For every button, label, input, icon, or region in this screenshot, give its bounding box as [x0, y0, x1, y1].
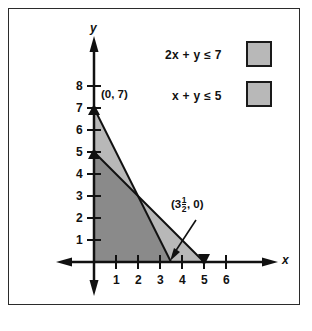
x-axis-label: x [282, 254, 289, 266]
legend-swatch-1 [246, 81, 272, 107]
x-axis-arrow-left [56, 258, 72, 267]
y-axis-arrow-up [90, 36, 99, 52]
y-tick-label-6: 6 [76, 124, 83, 136]
intercept-marker-0-7 [88, 104, 100, 115]
x-tick-label-2: 2 [135, 274, 142, 286]
legend-label-0: 2x + y ≤ 7 [165, 49, 222, 61]
point-label-suffix: , 0) [187, 198, 204, 210]
y-axis-label: y [90, 22, 97, 34]
fraction-denominator: 2 [182, 204, 187, 214]
y-tick-label-7: 7 [76, 102, 83, 114]
x-tick-label-3: 3 [157, 274, 164, 286]
y-axis-arrow-down [90, 280, 99, 296]
point-label-3half-0: (312, 0) [171, 196, 204, 214]
point-label-0-7: (0, 7) [101, 89, 128, 101]
x-tick-label-5: 5 [201, 274, 208, 286]
fraction-one-half: 12 [182, 196, 187, 214]
legend-swatch-0 [246, 41, 272, 67]
y-tick-label-3: 3 [76, 190, 83, 202]
x-axis-arrow-right [262, 258, 278, 267]
y-tick-label-4: 4 [76, 168, 83, 180]
point-label-prefix: (3 [171, 198, 181, 210]
x-tick-label-4: 4 [179, 274, 186, 286]
x-tick-label-1: 1 [113, 274, 120, 286]
fraction-numerator: 1 [182, 196, 187, 204]
y-tick-label-1: 1 [76, 234, 83, 246]
region-feasible-overlap [94, 152, 171, 262]
legend-label-1: x + y ≤ 5 [172, 90, 222, 102]
x-tick-label-6: 6 [223, 274, 230, 286]
y-tick-label-2: 2 [76, 212, 83, 224]
y-tick-label-8: 8 [76, 80, 83, 92]
y-tick-label-5: 5 [76, 146, 83, 158]
